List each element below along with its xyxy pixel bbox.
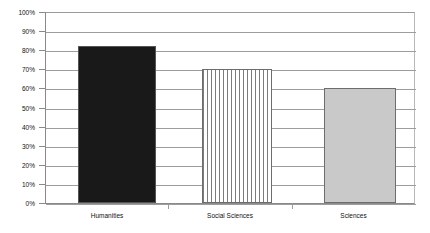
ytick-mark-90 bbox=[39, 31, 45, 32]
bar-sciences[interactable] bbox=[324, 88, 396, 203]
gridline-90 bbox=[46, 32, 416, 33]
ytick-mark-40 bbox=[39, 127, 45, 128]
xtick-label-humanities: Humanities bbox=[46, 212, 168, 220]
ytick-label-50: 50% bbox=[0, 105, 35, 112]
ytick-label-100: 100% bbox=[0, 9, 35, 16]
ytick-label-0: 0% bbox=[0, 200, 35, 207]
bar-social-sciences[interactable] bbox=[202, 69, 272, 203]
xtick-boundary-1 bbox=[168, 204, 169, 209]
ytick-mark-60 bbox=[39, 88, 45, 89]
ytick-label-60: 60% bbox=[0, 85, 35, 92]
gridline-0 bbox=[46, 204, 416, 205]
xtick-boundary-2 bbox=[292, 204, 293, 209]
ytick-mark-10 bbox=[39, 184, 45, 185]
ytick-mark-80 bbox=[39, 50, 45, 51]
ytick-label-10: 10% bbox=[0, 181, 35, 188]
bar-chart: 100% 90% 80% 70% 60% 50% 40% 30% 20% 10%… bbox=[0, 0, 430, 233]
ytick-mark-50 bbox=[39, 108, 45, 109]
ytick-mark-30 bbox=[39, 146, 45, 147]
ytick-mark-100 bbox=[39, 12, 45, 13]
ytick-label-20: 20% bbox=[0, 162, 35, 169]
ytick-label-90: 90% bbox=[0, 28, 35, 35]
ytick-label-80: 80% bbox=[0, 47, 35, 54]
xtick-label-social-sciences: Social Sciences bbox=[168, 212, 292, 220]
ytick-label-40: 40% bbox=[0, 124, 35, 131]
bar-humanities[interactable] bbox=[78, 46, 156, 203]
ytick-mark-20 bbox=[39, 165, 45, 166]
ytick-label-30: 30% bbox=[0, 143, 35, 150]
ytick-mark-0 bbox=[39, 203, 45, 204]
xtick-label-sciences: Sciences bbox=[292, 212, 415, 220]
ytick-mark-70 bbox=[39, 69, 45, 70]
ytick-label-70: 70% bbox=[0, 66, 35, 73]
plot-area bbox=[45, 12, 415, 204]
